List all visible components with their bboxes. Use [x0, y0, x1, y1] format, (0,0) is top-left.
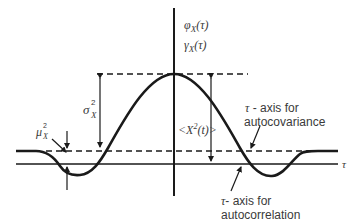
angle-open: < [178, 123, 186, 137]
mean-square-label: <X2(t)> [178, 122, 217, 137]
sigma-symbol: σ [83, 102, 90, 117]
tau-axis-label: τ [342, 158, 347, 170]
gamma-label: γX(τ) [184, 38, 207, 54]
autocovariance-annotation-line2: autocovariance [244, 115, 326, 129]
mu-subscript: X [42, 132, 49, 141]
phi-argument: (τ) [196, 18, 208, 32]
gamma-argument: (τ) [194, 38, 206, 52]
annotation-text: - axis for [225, 194, 271, 208]
mu-superscript: 2 [43, 122, 47, 129]
sigma-superscript: 2 [91, 98, 96, 107]
autocorrelation-pointer [231, 167, 241, 191]
autocovariance-pointer [251, 126, 260, 148]
sigma-subscript: X [90, 110, 97, 120]
angle-close: > [209, 123, 217, 137]
correlation-diagram: φX(τ) γX(τ) σ 2 X μ 2 X <X2(t)> τ τ - ax… [0, 0, 360, 224]
mean-square-argument: (t) [197, 123, 208, 137]
autocorrelation-annotation-line1: τ- axis for [221, 194, 271, 208]
mu-pointer [52, 139, 66, 152]
sigma-label: σ [83, 102, 90, 117]
phi-label: φX(τ) [184, 18, 208, 34]
mu-label: μ [35, 125, 42, 139]
annotation-text: - axis for [249, 101, 298, 115]
autocovariance-annotation-line1: τ - axis for [245, 101, 299, 115]
autocorrelation-annotation-line2: autocorrelation [221, 208, 300, 222]
